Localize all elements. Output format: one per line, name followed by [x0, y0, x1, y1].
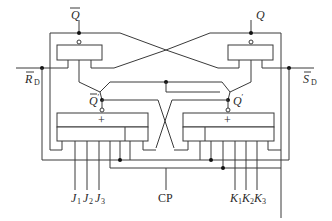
- lower-cross: [156, 100, 174, 148]
- svg-text:′: ′: [241, 93, 243, 102]
- jk-flip-flop-diagram: Q Q R D S D Q ′ Q ′ + + J 1 J 2 J 3 CP K…: [0, 0, 332, 221]
- svg-text:1: 1: [77, 197, 81, 206]
- junction-dot: [209, 158, 213, 162]
- cross-coupling: [91, 33, 239, 68]
- slave-gate-right: [228, 40, 273, 82]
- svg-text:3: 3: [262, 197, 266, 206]
- label-plus-left: +: [98, 113, 105, 127]
- label-j-inputs: J 1 J 2 J 3: [71, 191, 105, 206]
- label-cp: CP: [158, 191, 173, 205]
- junction-dot: [118, 158, 122, 162]
- svg-text:Q: Q: [256, 8, 265, 22]
- label-q-prime: Q ′: [233, 93, 243, 108]
- svg-text:Q: Q: [71, 8, 80, 22]
- label-q-bar: Q: [70, 8, 80, 22]
- svg-text:D: D: [311, 78, 317, 87]
- j-inputs: [75, 141, 99, 190]
- slave-gate-left: [57, 40, 102, 82]
- junction-dot: [77, 31, 81, 35]
- label-rd: R D: [24, 72, 40, 87]
- svg-text:′: ′: [97, 93, 99, 102]
- label-plus-right: +: [224, 113, 231, 127]
- junction-dot: [249, 31, 253, 35]
- k-inputs: [235, 141, 257, 190]
- feedback-and-clock-bus: [42, 141, 289, 190]
- svg-text:D: D: [34, 78, 40, 87]
- label-sd: S D: [303, 72, 317, 87]
- junction-dot: [221, 166, 225, 170]
- label-k-inputs: K 1 K 2 K 3: [229, 191, 266, 206]
- label-q-prime-bar: Q ′: [89, 93, 99, 108]
- svg-text:R: R: [24, 72, 33, 86]
- svg-text:S: S: [303, 72, 309, 86]
- svg-text:3: 3: [101, 197, 105, 206]
- label-q: Q: [256, 8, 265, 22]
- svg-text:2: 2: [89, 197, 93, 206]
